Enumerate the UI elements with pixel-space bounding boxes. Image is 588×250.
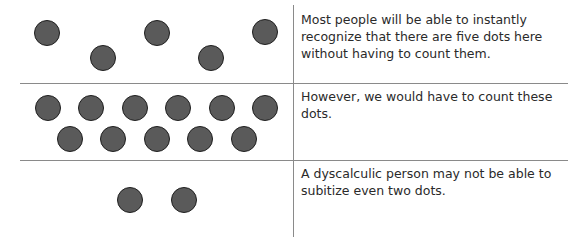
dot: [144, 20, 170, 46]
row-divider-1: [20, 83, 568, 84]
dot: [231, 126, 257, 152]
dot: [35, 95, 61, 121]
dot: [100, 126, 126, 152]
dot: [90, 45, 116, 71]
dot: [252, 95, 278, 121]
dot: [122, 95, 148, 121]
row-2-caption: However, we would have to count these do…: [301, 88, 571, 122]
dot: [78, 95, 104, 121]
dot: [144, 126, 170, 152]
dot: [117, 187, 143, 213]
dot: [34, 20, 60, 46]
row-3-caption: A dyscalculic person may not be able to …: [301, 165, 571, 199]
dot: [198, 45, 224, 71]
dot: [171, 187, 197, 213]
dot: [165, 95, 191, 121]
dot: [57, 126, 83, 152]
row-divider-2: [20, 160, 568, 161]
dot: [209, 95, 235, 121]
column-divider: [293, 5, 294, 237]
dot: [187, 126, 213, 152]
dot: [252, 19, 278, 45]
row-1-caption: Most people will be able to instantly re…: [301, 11, 571, 62]
